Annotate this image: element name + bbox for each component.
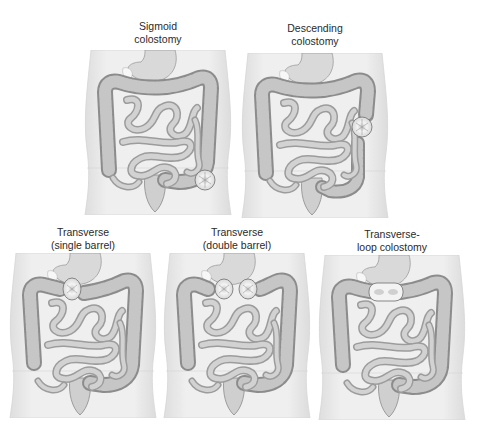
panel-label-descending: Descending colostomy xyxy=(240,22,390,47)
illustration-sigmoid-colostomy xyxy=(83,50,233,215)
stoma-icon xyxy=(352,117,372,137)
label-line-1: Sigmoid xyxy=(83,20,233,33)
loop-stoma-icon xyxy=(369,283,403,301)
stoma-icon xyxy=(195,170,215,190)
label-line-1: Transverse xyxy=(8,226,158,239)
panel-label-transverse-double: Transverse (double barrel) xyxy=(162,226,312,251)
label-line-2: (single barrel) xyxy=(8,239,158,252)
illustration-transverse-single-barrel xyxy=(8,253,158,418)
label-line-2: colostomy xyxy=(240,35,390,48)
label-line-2: (double barrel) xyxy=(162,239,312,252)
illustration-transverse-double-barrel xyxy=(162,253,312,418)
label-line-1: Transverse xyxy=(162,226,312,239)
label-line-2: loop colostomy xyxy=(317,241,467,254)
panel-label-transverse-loop: Transverse- loop colostomy xyxy=(317,228,467,253)
colostomy-types-figure: Sigmoid colostomy Descending colostomy xyxy=(0,0,484,437)
stoma-distal-icon xyxy=(239,279,257,299)
label-line-1: Descending xyxy=(240,22,390,35)
panel-label-transverse-single: Transverse (single barrel) xyxy=(8,226,158,251)
label-line-1: Transverse- xyxy=(317,228,467,241)
panel-label-sigmoid: Sigmoid colostomy xyxy=(83,20,233,45)
illustration-transverse-loop-colostomy xyxy=(317,255,467,420)
illustration-descending-colostomy xyxy=(240,53,390,218)
stoma-icon xyxy=(63,278,81,300)
label-line-2: colostomy xyxy=(83,33,233,46)
stoma-proximal-icon xyxy=(215,279,233,299)
